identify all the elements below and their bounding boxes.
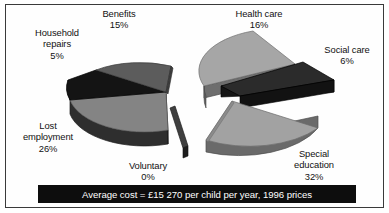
label-special-education: Special education 32% — [274, 148, 354, 182]
label-lost-employment-pct: 26% — [4, 143, 92, 154]
label-voluntary-pct: 0% — [112, 171, 184, 182]
label-household-repairs-line2: repairs — [43, 38, 71, 49]
label-benefits: Benefits 15% — [83, 8, 155, 31]
label-household-repairs: Household repairs 5% — [16, 27, 98, 61]
label-special-education-line2: education — [294, 159, 334, 170]
label-household-repairs-line1: Household — [35, 27, 79, 38]
label-lost-employment: Lost employment 26% — [4, 120, 92, 154]
label-lost-employment-line1: Lost — [39, 120, 56, 131]
label-social-care: Social care 6% — [309, 44, 385, 67]
caption-bar: Average cost = £15 270 per child per yea… — [38, 185, 356, 203]
label-benefits-name: Benefits — [102, 8, 135, 19]
label-health-care-name: Health care — [236, 8, 283, 19]
label-health-care: Health care 16% — [216, 8, 302, 31]
label-social-care-pct: 6% — [309, 55, 385, 66]
label-special-education-pct: 32% — [274, 171, 354, 182]
caption-text: Average cost = £15 270 per child per yea… — [82, 189, 312, 200]
label-household-repairs-pct: 5% — [16, 50, 98, 61]
label-voluntary-name: Voluntary — [129, 160, 167, 171]
label-voluntary: Voluntary 0% — [112, 160, 184, 183]
pie-chart-figure: Household repairs 5% Benefits 15% Lost e… — [0, 0, 389, 213]
label-social-care-name: Social care — [324, 44, 369, 55]
label-lost-employment-line2: employment — [23, 131, 73, 142]
label-benefits-pct: 15% — [83, 19, 155, 30]
label-health-care-pct: 16% — [216, 19, 302, 30]
label-special-education-line1: Special — [299, 148, 329, 159]
slice-voluntary — [170, 106, 188, 158]
